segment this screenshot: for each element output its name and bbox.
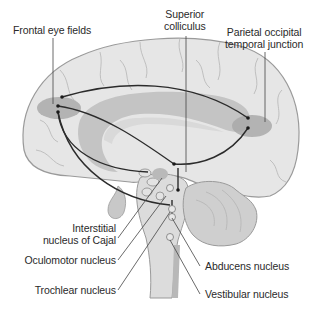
label-text: Vestibular nucleus <box>205 288 288 300</box>
label-text: colliculus <box>164 20 206 32</box>
label-trochlear-nucleus: Trochlear nucleus <box>35 284 116 296</box>
label-oculomotor-nucleus: Oculomotor nucleus <box>24 254 116 266</box>
label-frontal-eye-fields: Frontal eye fields <box>13 24 91 36</box>
label-text: Frontal eye fields <box>13 24 91 36</box>
label-text: Trochlear nucleus <box>35 284 116 296</box>
label-text: Superior <box>164 8 206 20</box>
poti-region <box>232 115 272 137</box>
label-superior-colliculus: Superior colliculus <box>164 8 206 32</box>
midbrain-highlight <box>152 168 168 180</box>
label-poti: Parietal occipital temporal junction <box>225 26 303 50</box>
label-abducens-nucleus: Abducens nucleus <box>205 260 289 272</box>
pituitary <box>108 186 126 219</box>
label-text: nucleus of Cajal <box>43 234 116 246</box>
label-text: Interstitial <box>43 222 116 234</box>
label-text: Oculomotor nucleus <box>24 254 116 266</box>
label-interstitial-nucleus-of-cajal: Interstitial nucleus of Cajal <box>43 222 116 246</box>
label-vestibular-nucleus: Vestibular nucleus <box>205 288 288 300</box>
label-text: Abducens nucleus <box>205 260 289 272</box>
label-text: temporal junction <box>225 38 303 50</box>
label-text: Parietal occipital <box>225 26 303 38</box>
